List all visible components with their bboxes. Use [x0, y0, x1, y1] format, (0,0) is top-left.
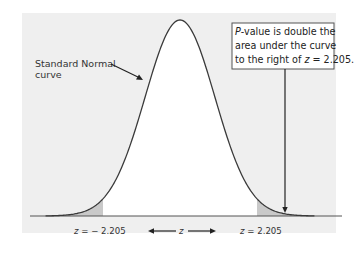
left-critical-label: z = − 2.205: [73, 226, 126, 236]
right-critical-label: z = 2.205: [239, 226, 282, 236]
callout-line2: area under the curve: [235, 40, 336, 51]
z-axis-label: z: [178, 226, 184, 236]
callout-line3: to the right of z = 2.205.: [235, 54, 354, 65]
standard-normal-figure: Standard Normal curve P-value is double …: [0, 0, 364, 255]
callout-line1: P-value is double the: [235, 26, 336, 37]
curve-label-line2: curve: [35, 69, 62, 80]
curve-label: Standard Normal: [35, 58, 116, 69]
